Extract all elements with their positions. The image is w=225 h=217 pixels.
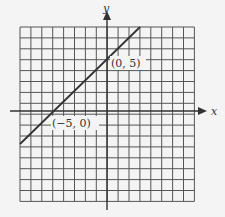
point-label-neg5-0: (−5, 0) <box>52 117 91 130</box>
coordinate-plane: x y (0, 5) (−5, 0) <box>0 0 225 217</box>
y-axis-label: y <box>102 2 110 15</box>
x-axis-label: x <box>211 105 218 118</box>
point-label-0-5: (0, 5) <box>111 57 141 70</box>
x-axis-arrow-icon <box>198 107 207 115</box>
